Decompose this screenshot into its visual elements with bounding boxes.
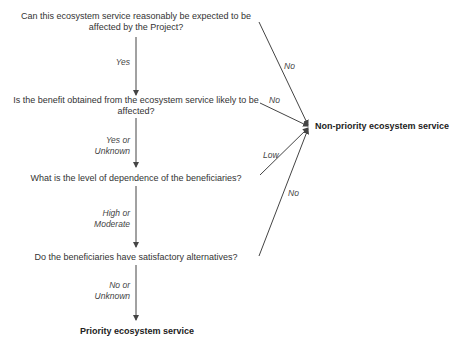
question-3: What is the level of dependence of the b… [20,173,252,184]
answer-no-unknown: No or Unknown [80,280,130,302]
question-2-line1: Is the benefit obtained from the ecosyst… [8,95,264,106]
side-label-low: Low [263,150,279,161]
side-label-no-2: No [269,95,280,106]
answer-high-moderate: High or Moderate [80,208,130,230]
answer-line2: Unknown [80,146,130,157]
answer-line2: Moderate [80,219,130,230]
question-1-line1: Can this ecosystem service reasonably be… [20,11,252,22]
answer-line1: Yes or [80,135,130,146]
question-1: Can this ecosystem service reasonably be… [20,11,252,33]
answer-yes-unknown: Yes or Unknown [80,135,130,157]
question-2-line2: affected? [8,106,264,117]
question-4: Do the beneficiaries have satisfactory a… [20,252,252,263]
answer-line1: No or [80,280,130,291]
question-2: Is the benefit obtained from the ecosyst… [8,95,264,117]
question-3-line1: What is the level of dependence of the b… [20,173,252,184]
side-label-no-3: No [288,188,299,199]
answer-line1: High or [80,208,130,219]
answer-yes-text: Yes [90,57,130,68]
question-1-line2: affected by the Project? [20,22,252,33]
priority-outcome: Priority ecosystem service [80,326,192,336]
non-priority-outcome: Non-priority ecosystem service [315,121,449,131]
side-label-no-1: No [284,61,295,72]
answer-line2: Unknown [80,291,130,302]
answer-yes: Yes [90,57,130,68]
question-4-line1: Do the beneficiaries have satisfactory a… [20,252,252,263]
